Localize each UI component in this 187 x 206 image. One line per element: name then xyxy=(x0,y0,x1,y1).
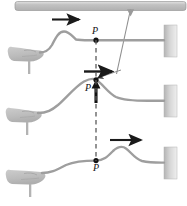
fixed-end-wall-block xyxy=(164,147,177,179)
rope-with-pulse xyxy=(40,32,164,53)
hand-holding-rope xyxy=(8,47,44,74)
rope-with-pulse xyxy=(38,79,164,113)
point-label-p-top: P xyxy=(92,26,98,36)
ceiling-bar xyxy=(15,2,186,11)
fixed-end-wall-block xyxy=(164,85,177,117)
rope-with-pulse xyxy=(42,147,164,173)
snapshot-top xyxy=(8,20,164,75)
fixed-end-wall-block xyxy=(164,25,177,57)
snapshot-bottom xyxy=(6,140,164,197)
point-label-p-middle: P xyxy=(85,83,91,93)
leader-line-from-ceiling-to-point-p xyxy=(98,9,135,78)
wave-pulse-figure: P P P xyxy=(0,0,187,206)
hand-holding-rope xyxy=(6,108,42,135)
point-label-p-bottom: P xyxy=(93,163,99,173)
hand-holding-rope xyxy=(6,170,46,197)
